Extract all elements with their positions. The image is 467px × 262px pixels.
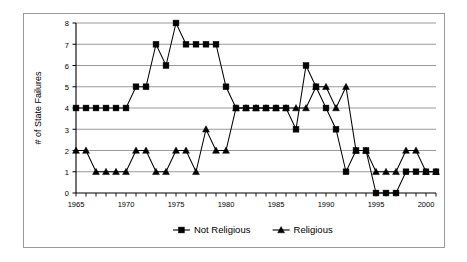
x-tick-label: 1965 — [68, 200, 85, 209]
x-axis-tick-labels: 19651970197519801985199019952000 — [68, 200, 435, 209]
x-tick-label: 1970 — [118, 200, 135, 209]
data-point-square — [133, 84, 139, 90]
data-point-square — [173, 20, 179, 26]
data-point-square — [343, 169, 349, 175]
data-point-square — [323, 105, 329, 111]
data-point-square — [293, 126, 299, 132]
data-point-square — [223, 84, 229, 90]
chart-legend: Not ReligiousReligious — [173, 224, 333, 235]
line-chart: 012345678 196519701975198019851990199520… — [24, 14, 444, 247]
data-point-square — [73, 105, 79, 111]
chart-container: 012345678 196519701975198019851990199520… — [23, 13, 445, 248]
y-tick-label: 0 — [65, 189, 69, 198]
data-point-square — [83, 105, 89, 111]
data-point-square — [393, 190, 399, 196]
data-point-square — [193, 41, 199, 47]
data-point-square — [373, 190, 379, 196]
data-point-square — [179, 227, 185, 233]
x-tick-label: 2000 — [418, 200, 435, 209]
x-tick-label: 1975 — [168, 200, 185, 209]
y-tick-label: 8 — [65, 19, 69, 28]
y-tick-label: 4 — [65, 104, 69, 113]
data-point-square — [383, 190, 389, 196]
data-point-square — [143, 84, 149, 90]
data-point-square — [123, 105, 129, 111]
y-axis-title: # of State Failures — [33, 71, 43, 145]
data-point-square — [403, 169, 409, 175]
data-point-square — [93, 105, 99, 111]
y-tick-label: 2 — [65, 147, 69, 156]
data-point-square — [213, 41, 219, 47]
legend-label: Religious — [294, 224, 333, 235]
y-tick-label: 7 — [65, 41, 69, 50]
data-point-square — [333, 126, 339, 132]
data-point-square — [413, 169, 419, 175]
data-point-square — [153, 41, 159, 47]
legend-item-not-religious[interactable]: Not Religious — [173, 224, 251, 235]
y-axis-label-text: # of State Failures — [33, 71, 43, 145]
x-tick-label: 1995 — [368, 200, 385, 209]
data-point-square — [113, 105, 119, 111]
y-tick-label: 3 — [65, 126, 69, 135]
x-tick-label: 1985 — [268, 200, 285, 209]
legend-item-religious[interactable]: Religious — [273, 224, 333, 235]
legend-label: Not Religious — [194, 224, 251, 235]
x-tick-label: 1980 — [218, 200, 235, 209]
y-tick-label: 6 — [65, 62, 69, 71]
y-tick-label: 1 — [65, 168, 69, 177]
data-point-square — [303, 63, 309, 69]
data-point-square — [203, 41, 209, 47]
y-tick-label: 5 — [65, 83, 69, 92]
data-point-square — [103, 105, 109, 111]
data-point-square — [163, 63, 169, 69]
data-point-square — [183, 41, 189, 47]
x-tick-label: 1990 — [318, 200, 335, 209]
gridlines — [76, 23, 436, 172]
